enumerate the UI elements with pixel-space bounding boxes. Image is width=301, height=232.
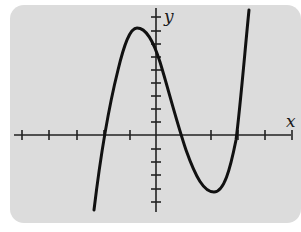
cubic-graph: x y bbox=[0, 0, 301, 232]
x-axis-label: x bbox=[286, 111, 296, 131]
y-axis-label: y bbox=[163, 6, 174, 26]
y-axis bbox=[151, 8, 161, 212]
x-axis bbox=[14, 130, 292, 140]
cubic-curve bbox=[94, 10, 249, 210]
